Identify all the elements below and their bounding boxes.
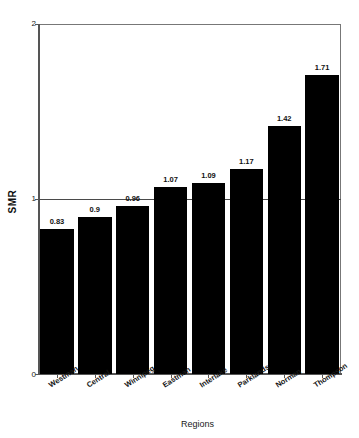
bar-value-label-interlake: 1.09 — [186, 172, 231, 180]
bar-chart-figure: 0 1 2 SMR 0.830.90.961.071.091.171.421.7… — [0, 0, 359, 438]
bar-value-label-central: 0.9 — [72, 206, 117, 214]
bar-value-label-westman: 0.83 — [34, 218, 79, 226]
bar-westman — [40, 229, 73, 374]
y-tick-label-0: 0 — [26, 371, 36, 379]
bar-winnipeg — [116, 206, 149, 374]
bar-value-label-thompson: 1.71 — [299, 64, 344, 72]
bars-layer: 0.830.90.961.071.091.171.421.71 — [38, 24, 341, 374]
x-axis-title: Regions — [0, 419, 359, 429]
bar-parklands — [230, 169, 263, 374]
bar-norman — [268, 126, 301, 375]
y-axis-title: SMR — [7, 178, 18, 226]
bar-interlake — [192, 183, 225, 374]
bar-value-label-winnipeg: 0.96 — [110, 195, 155, 203]
bar-eastman — [154, 187, 187, 374]
clipped-title-remnant — [70, 0, 300, 3]
bar-value-label-norman: 1.42 — [262, 115, 307, 123]
bar-thompson — [305, 75, 338, 374]
bar-central — [78, 217, 111, 375]
bar-value-label-parklands: 1.17 — [224, 158, 269, 166]
y-tick-mark-0 — [35, 374, 39, 375]
